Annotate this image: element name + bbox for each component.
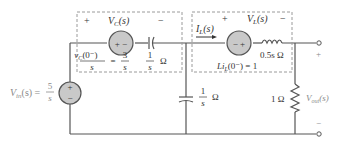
resistor bbox=[291, 84, 299, 112]
ind-source-sign: − + bbox=[233, 39, 245, 49]
shunt-cap-num: 1 bbox=[201, 86, 206, 96]
resistor-label: 1 Ω bbox=[271, 94, 285, 104]
source-den: s bbox=[48, 93, 52, 103]
output-minus: − bbox=[316, 118, 321, 128]
vl-plus: + bbox=[222, 13, 228, 24]
il-label: IL(s) bbox=[195, 23, 214, 36]
vc0-value-den: s bbox=[123, 62, 127, 72]
circuit-diagram: + − Vin(s) = 5 s + − VC(s) + − vC(0⁻) s … bbox=[0, 0, 343, 145]
cap-imp-den: s bbox=[148, 62, 152, 72]
vc0-value-num: 3 bbox=[123, 50, 128, 60]
inductor-coil bbox=[262, 40, 282, 43]
output-label: Vout(s) bbox=[306, 93, 329, 104]
output-terminal-minus bbox=[317, 132, 321, 136]
vc0-den: s bbox=[90, 62, 94, 72]
vc0-num: vC(0⁻) bbox=[74, 50, 97, 61]
output-plus: + bbox=[316, 49, 321, 59]
cap-imp-num: 1 bbox=[148, 50, 153, 60]
eq-sign: = bbox=[110, 56, 115, 66]
source-plus: + bbox=[67, 82, 72, 92]
vl-minus: − bbox=[280, 13, 286, 24]
output-terminal-plus bbox=[317, 41, 321, 45]
cap-imp-unit: Ω bbox=[160, 56, 167, 66]
shunt-cap-unit: Ω bbox=[212, 92, 219, 102]
source-num: 5 bbox=[48, 81, 53, 91]
vl-label: VL(s) bbox=[247, 13, 268, 26]
shunt-cap-den: s bbox=[201, 98, 205, 108]
cap-source-sign: + − bbox=[115, 39, 127, 49]
vc-plus: + bbox=[84, 15, 90, 26]
vc-minus: − bbox=[158, 15, 164, 26]
ind-imp: 0.5s Ω bbox=[260, 50, 284, 60]
li0-label: LiL(0⁻) = 1 bbox=[216, 61, 257, 72]
source-label: Vin(s) = bbox=[10, 87, 41, 100]
source-minus: − bbox=[67, 93, 72, 103]
vc-label: VC(s) bbox=[108, 15, 130, 28]
